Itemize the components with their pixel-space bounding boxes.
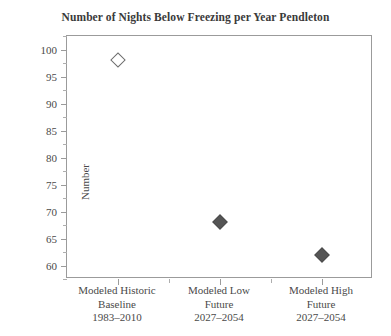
y-tick-label: 95 bbox=[29, 72, 57, 82]
x-category-label-line: 2027–2054 bbox=[261, 311, 381, 325]
chart-figure: Number of Nights Below Freezing per Year… bbox=[0, 0, 391, 336]
y-tick-label: 70 bbox=[29, 207, 57, 217]
y-tick-label: 60 bbox=[29, 261, 57, 271]
y-tick-label: 100 bbox=[29, 45, 57, 55]
x-category-label: Modeled HighFuture2027–2054 bbox=[261, 284, 381, 325]
chart-title: Number of Nights Below Freezing per Year… bbox=[0, 11, 391, 23]
y-minor-tick-mark bbox=[63, 279, 67, 280]
data-point-marker bbox=[212, 215, 228, 231]
x-category-label-line: Modeled High bbox=[261, 284, 381, 298]
data-markers bbox=[67, 36, 371, 277]
x-minor-tick-mark bbox=[169, 279, 170, 283]
y-tick-label: 90 bbox=[29, 99, 57, 109]
y-tick-label: 85 bbox=[29, 126, 57, 136]
plot-area: Number 6065707580859095100 bbox=[66, 35, 372, 278]
y-tick-label: 80 bbox=[29, 153, 57, 163]
y-tick-label: 65 bbox=[29, 234, 57, 244]
data-point-marker bbox=[314, 247, 330, 263]
y-tick-label: 75 bbox=[29, 180, 57, 190]
x-minor-tick-mark bbox=[271, 279, 272, 283]
x-category-label-line: Future bbox=[261, 298, 381, 312]
data-point-marker bbox=[110, 53, 126, 69]
